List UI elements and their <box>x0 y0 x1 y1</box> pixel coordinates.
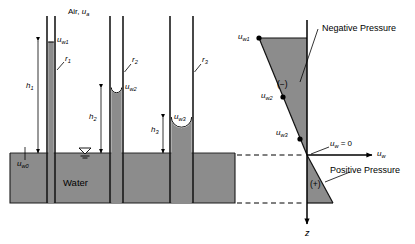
tube-3-pressure-label: uw3 <box>174 113 186 121</box>
air-label: Air, ua <box>68 8 89 16</box>
positive-sign-label: (+) <box>310 180 321 189</box>
tube-1-radius-label: r1 <box>65 55 71 63</box>
uw-axis-label: uw <box>377 150 386 158</box>
chart-point-uw1-label: uw1 <box>238 33 250 41</box>
tube-1-height-label: h1 <box>26 82 34 90</box>
reservoir-pressure-label: uw0 <box>17 160 29 168</box>
tube-1-pressure-label: uw1 <box>57 36 69 44</box>
z-axis-label: z <box>305 229 310 238</box>
tube-2-radius-label: r2 <box>132 56 138 64</box>
figure-canvas: Air, ua uw1 r1 h1 r2 uw2 h2 r3 uw3 h3 uw… <box>0 0 415 244</box>
negative-sign-label: (−) <box>277 80 288 89</box>
zero-pressure-label: uw = 0 <box>330 140 352 148</box>
chart-point-uw2-label: uw2 <box>261 92 273 100</box>
water-label: Water <box>63 178 88 188</box>
positive-pressure-label: Positive Pressure <box>330 166 400 175</box>
chart-point-uw3-label: uw3 <box>276 129 288 137</box>
negative-pressure-label: Negative Pressure <box>322 24 396 33</box>
tube-2-pressure-label: uw2 <box>125 83 137 91</box>
tube-3-height-label: h3 <box>151 126 159 134</box>
projection-lines <box>237 155 305 203</box>
tube-3-radius-label: r3 <box>202 56 208 64</box>
tube-2-height-label: h2 <box>89 113 97 121</box>
